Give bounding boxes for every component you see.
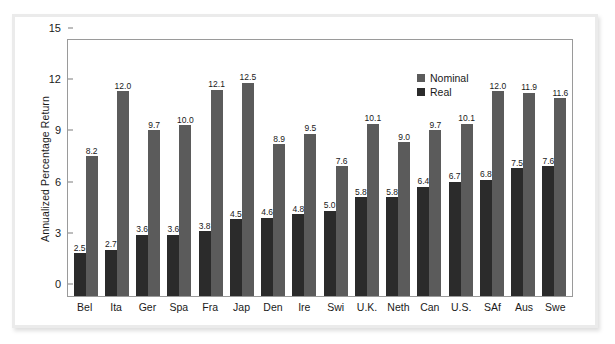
bar-slot: 9.5: [304, 40, 316, 296]
bar-value-label: 9.5: [304, 124, 316, 133]
bar-nominal[interactable]: 9.5: [304, 134, 316, 296]
bar-value-label: 9.0: [398, 133, 410, 142]
bar-real[interactable]: 2.5: [74, 253, 86, 296]
bar-nominal[interactable]: 12.5: [242, 83, 254, 296]
bar-real[interactable]: 5.8: [355, 197, 367, 296]
chart-legend: NominalReal: [417, 73, 469, 97]
bar-slot: 4.8: [292, 40, 304, 296]
bar-value-label: 9.7: [148, 121, 160, 130]
bar-slot: 11.6: [554, 40, 566, 296]
x-tick-label: Bel: [69, 301, 100, 313]
bar-slot: 7.6: [542, 40, 554, 296]
bar-group: 3.69.7: [133, 40, 164, 296]
bar-value-label: 6.7: [449, 172, 461, 181]
bar-group: 5.07.6: [320, 40, 351, 296]
x-tick-label: Jap: [226, 301, 257, 313]
bar-value-label: 12.5: [240, 73, 257, 82]
y-tick-mark: [68, 28, 73, 29]
legend-item[interactable]: Real: [417, 87, 469, 98]
bar-nominal[interactable]: 7.6: [336, 166, 348, 296]
bar-nominal[interactable]: 11.6: [554, 98, 566, 296]
bar-slot: 5.8: [386, 40, 398, 296]
x-tick-label: SAf: [477, 301, 508, 313]
bar-real[interactable]: 6.7: [449, 182, 461, 296]
bar-real[interactable]: 6.4: [417, 187, 429, 296]
bar-value-label: 10.1: [365, 114, 382, 123]
bar-value-label: 9.7: [429, 121, 441, 130]
bar-value-label: 7.6: [336, 157, 348, 166]
bar-slot: 3.6: [136, 40, 148, 296]
legend-swatch-icon: [417, 74, 425, 82]
bar-real[interactable]: 5.0: [324, 211, 336, 296]
bar-nominal[interactable]: 9.7: [429, 130, 441, 296]
bar-nominal[interactable]: 9.7: [148, 130, 160, 296]
bar-value-label: 7.5: [511, 159, 523, 168]
bar-nominal[interactable]: 8.9: [273, 144, 285, 296]
x-tick-label: Den: [257, 301, 288, 313]
bar-slot: 2.5: [74, 40, 86, 296]
bar-slot: 3.6: [167, 40, 179, 296]
y-tick-label: 3: [22, 227, 68, 239]
bar-real[interactable]: 3.6: [167, 235, 179, 296]
x-tick-label: Fra: [195, 301, 226, 313]
bar-nominal[interactable]: 10.0: [179, 125, 191, 296]
x-tick-label: Ger: [132, 301, 163, 313]
bar-slot: 7.6: [336, 40, 348, 296]
x-tick-label: Aus: [508, 301, 539, 313]
bar-group: 3.812.1: [195, 40, 226, 296]
bar-slot: 5.0: [324, 40, 336, 296]
bar-nominal[interactable]: 8.2: [86, 156, 98, 296]
bar-real[interactable]: 6.8: [480, 180, 492, 296]
bar-group: 4.89.5: [289, 40, 320, 296]
bar-slot: 12.5: [242, 40, 254, 296]
bar-value-label: 12.0: [490, 82, 507, 91]
bar-value-label: 4.5: [230, 210, 242, 219]
bar-slot: 10.1: [367, 40, 379, 296]
bar-group: 2.712.0: [101, 40, 132, 296]
x-tick-label: Can: [414, 301, 445, 313]
bar-value-label: 5.8: [386, 188, 398, 197]
bar-nominal[interactable]: 10.1: [367, 124, 379, 296]
x-tick-label: U.K.: [351, 301, 382, 313]
bar-group: 6.812.0: [476, 40, 507, 296]
bar-slot: 12.0: [492, 40, 504, 296]
bar-real[interactable]: 4.8: [292, 214, 304, 296]
x-tick-label: Neth: [383, 301, 414, 313]
bar-real[interactable]: 2.7: [105, 250, 117, 296]
bar-nominal[interactable]: 12.0: [117, 91, 129, 296]
bar-nominal[interactable]: 10.1: [461, 124, 473, 296]
bar-real[interactable]: 3.6: [136, 235, 148, 296]
y-tick-label: 12: [22, 73, 68, 85]
bar-real[interactable]: 3.8: [199, 231, 211, 296]
bar-value-label: 2.7: [105, 240, 117, 249]
bar-value-label: 12.0: [115, 82, 132, 91]
bar-value-label: 2.5: [74, 244, 86, 253]
x-tick-label: U.S.: [446, 301, 477, 313]
bar-real[interactable]: 7.5: [511, 168, 523, 296]
legend-label: Real: [430, 87, 452, 98]
x-tick-label: Ire: [289, 301, 320, 313]
bar-slot: 8.2: [86, 40, 98, 296]
bar-nominal[interactable]: 12.0: [492, 91, 504, 296]
bar-group: 7.511.9: [508, 40, 539, 296]
bar-slot: 7.5: [511, 40, 523, 296]
bar-real[interactable]: 4.6: [261, 218, 273, 297]
bar-value-label: 6.8: [480, 170, 492, 179]
bar-value-label: 5.0: [324, 201, 336, 210]
legend-item[interactable]: Nominal: [417, 73, 469, 84]
bar-value-label: 3.6: [136, 225, 148, 234]
x-tick-label: Swi: [320, 301, 351, 313]
y-tick-label: 9: [22, 124, 68, 136]
x-tick-label: Swe: [540, 301, 571, 313]
bar-nominal[interactable]: 9.0: [398, 142, 410, 296]
bar-value-label: 5.8: [355, 188, 367, 197]
bar-value-label: 4.6: [261, 208, 273, 217]
bar-value-label: 8.9: [273, 135, 285, 144]
bar-value-label: 12.1: [208, 80, 225, 89]
bar-real[interactable]: 5.8: [386, 197, 398, 296]
bar-nominal[interactable]: 11.9: [523, 93, 535, 296]
bar-real[interactable]: 4.5: [230, 219, 242, 296]
bar-nominal[interactable]: 12.1: [211, 90, 223, 297]
bar-slot: 4.6: [261, 40, 273, 296]
bar-real[interactable]: 7.6: [542, 166, 554, 296]
